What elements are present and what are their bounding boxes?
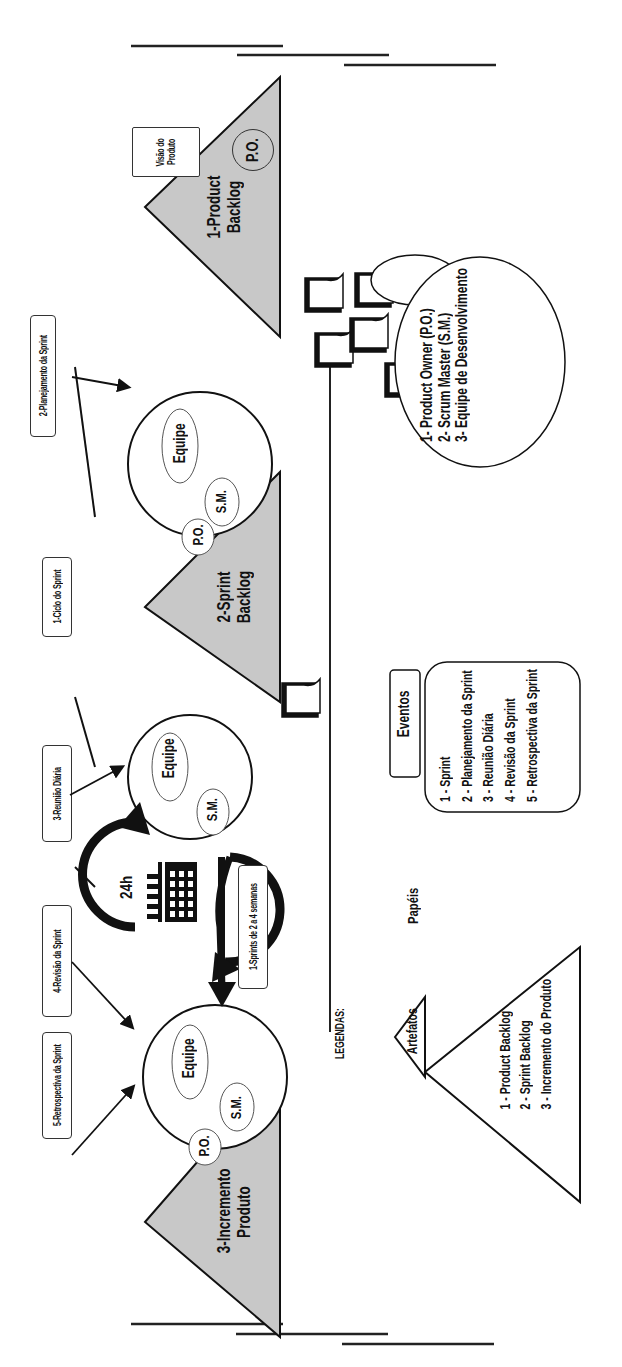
review-team-equipe: Equipe	[180, 1038, 198, 1078]
review-team-sm: S.M.	[228, 1096, 245, 1119]
events-item: 1 - Sprint	[435, 669, 457, 802]
artifacts-item: 2 - Sprint Backlog	[515, 1035, 535, 1110]
diagram-frame: Visão do Produto P.O. 1-Product Backlog …	[0, 0, 622, 1367]
roles-title: Papéis	[405, 888, 422, 924]
events-list: 1 - Sprint 2 - Planejamento da Sprint 3 …	[435, 625, 543, 802]
artifacts-item: 1 - Product Backlog	[495, 1035, 515, 1110]
events-item: 2 - Planejamento da Sprint	[457, 669, 479, 802]
events-item: 4 - Revisão da Sprint	[500, 669, 522, 802]
legend-heading: LEGENDAS:	[334, 1008, 347, 1059]
artifacts-list: 1 - Product Backlog 2 - Sprint Backlog 3…	[495, 1022, 556, 1122]
scrum-diagram: Visão do Produto P.O. 1-Product Backlog …	[0, 0, 622, 1367]
roles-item: 3- Equipe de Desenvolvimento	[453, 268, 471, 442]
increment-title: 3-Incremento Produto	[215, 1157, 255, 1267]
roles-item: 2- Scrum Master (S.M.)	[436, 268, 454, 442]
events-item: 3 - Reunião Diária	[478, 669, 500, 802]
review-team-po: P.O.	[196, 1135, 213, 1156]
events-item: 5 - Retrospectiva da Sprint	[522, 669, 544, 802]
roles-item: 1- Product Owner (P.O.)	[418, 268, 436, 442]
events-title: Eventos	[395, 691, 413, 738]
roles-list: 1- Product Owner (P.O.) 2- Scrum Master …	[418, 210, 471, 442]
artifacts-title: Artefatos	[405, 1008, 420, 1054]
artifacts-item: 3 - Incremento do Produto	[536, 1035, 556, 1110]
